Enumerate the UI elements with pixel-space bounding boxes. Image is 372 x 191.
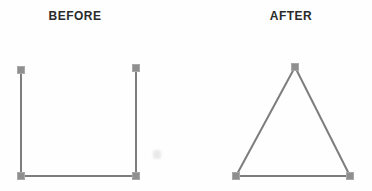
triangle-edge (295, 67, 350, 176)
triangle-vertex-handle (347, 173, 354, 180)
triangle-vertex-handle (233, 173, 240, 180)
shapes-canvas (0, 0, 372, 191)
before-after-figure: BEFORE AFTER (0, 0, 372, 191)
open-square-vertex-handle (18, 173, 25, 180)
scan-artifact (153, 150, 161, 159)
triangle-vertex-handle (292, 64, 299, 71)
open-square-vertex-handle (133, 173, 140, 180)
triangle-edge (236, 67, 295, 176)
open-square-vertex-handle (18, 67, 25, 74)
open-square-vertex-handle (133, 65, 140, 72)
